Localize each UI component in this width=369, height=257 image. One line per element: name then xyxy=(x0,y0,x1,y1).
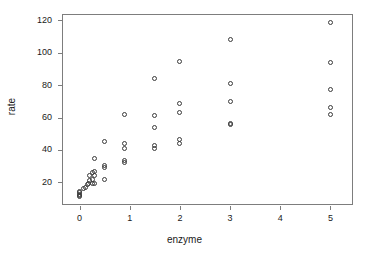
y-tick-mark xyxy=(58,182,62,183)
data-point xyxy=(328,112,333,117)
x-tick-label: 4 xyxy=(270,214,290,223)
plot-panel xyxy=(62,14,353,205)
data-point xyxy=(102,163,107,168)
y-axis-label: rate xyxy=(6,82,17,132)
data-point xyxy=(228,81,233,86)
y-tick-mark xyxy=(58,118,62,119)
x-tick-label: 1 xyxy=(120,214,140,223)
data-point xyxy=(328,105,333,110)
x-tick-label: 5 xyxy=(320,214,340,223)
data-point xyxy=(328,60,333,65)
x-tick-mark xyxy=(280,206,281,210)
x-tick-label: 2 xyxy=(170,214,190,223)
x-tick-label: 3 xyxy=(220,214,240,223)
y-tick-label: 80 xyxy=(22,81,52,90)
data-point xyxy=(228,99,233,104)
data-point xyxy=(152,143,157,148)
x-tick-label: 0 xyxy=(70,214,90,223)
y-tick-mark xyxy=(58,85,62,86)
y-tick-label: 120 xyxy=(22,16,52,25)
data-point xyxy=(328,87,333,92)
data-point xyxy=(228,121,233,126)
y-tick-label: 100 xyxy=(22,48,52,57)
scatter-plot-figure: 20406080100120 012345 enzyme rate xyxy=(0,0,369,257)
x-axis-label: enzyme xyxy=(0,234,369,245)
data-point xyxy=(177,101,182,106)
x-tick-mark xyxy=(230,206,231,210)
y-tick-mark xyxy=(58,150,62,151)
y-tick-label: 60 xyxy=(22,113,52,122)
y-tick-label: 40 xyxy=(22,145,52,154)
x-tick-mark xyxy=(180,206,181,210)
y-tick-label: 20 xyxy=(22,178,52,187)
x-tick-mark xyxy=(130,206,131,210)
x-tick-mark xyxy=(80,206,81,210)
y-tick-mark xyxy=(58,53,62,54)
x-tick-mark xyxy=(330,206,331,210)
y-tick-mark xyxy=(58,20,62,21)
